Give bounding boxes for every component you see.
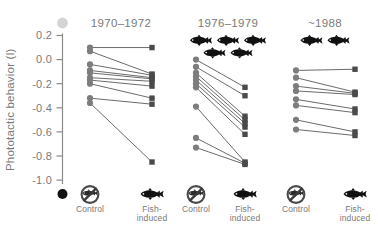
chart-figure: 0.2 0.0 -0.2 -0.4 -0.6 -0.8 -1.0 Photota…	[0, 0, 378, 238]
pair-connector-line	[196, 67, 245, 96]
chart-svg: 0.2 0.0 -0.2 -0.4 -0.6 -0.8 -1.0 Photota…	[0, 0, 378, 238]
pair-connector-line	[296, 105, 355, 112]
control-data-point	[293, 126, 299, 132]
control-data-point	[293, 75, 299, 81]
y-tick-label-5: -0.8	[32, 150, 52, 162]
pair-connector-line	[196, 138, 245, 163]
panel-title-2: ~1988	[308, 17, 342, 29]
pair-connector-line	[296, 91, 355, 95]
x-label-control: Control	[282, 204, 310, 214]
panel-series-2	[293, 67, 358, 139]
pair-connector-line	[90, 98, 152, 104]
fish-induced-data-point	[352, 110, 357, 115]
fish-induced-data-point	[242, 93, 247, 98]
control-data-point	[293, 117, 299, 123]
fish-induced-data-point	[149, 159, 154, 164]
x-label-fish-induced-line2: induced	[137, 213, 168, 223]
fish-induced-data-point	[149, 79, 154, 84]
fish-induced-data-point	[352, 133, 357, 138]
pair-connector-line	[196, 107, 245, 162]
fish-badge-icon	[190, 35, 212, 46]
x-label-control: Control	[76, 204, 104, 214]
x-label-fish-induced-line2: induced	[230, 213, 261, 223]
control-data-point	[87, 100, 93, 106]
control-data-point	[293, 96, 299, 102]
fish-icon	[141, 188, 164, 200]
x-category-fish-induced-0	[141, 188, 164, 200]
control-data-point	[293, 67, 299, 73]
y-tick-label-0: 0.2	[36, 29, 52, 41]
control-data-point	[293, 88, 299, 94]
fish-induced-data-point	[149, 95, 154, 100]
x-label-fish-induced-line2: induced	[340, 213, 371, 223]
control-data-point	[193, 135, 199, 141]
control-data-point	[193, 57, 199, 63]
y-tick-label-4: -0.6	[32, 126, 52, 138]
y-tick-label-3: -0.4	[32, 102, 52, 114]
fish-badge-icon	[217, 35, 239, 46]
control-data-point	[193, 103, 199, 109]
x-category-control-1	[188, 186, 205, 203]
pair-connector-line	[196, 84, 245, 127]
fish-induced-data-point	[149, 101, 154, 106]
control-data-point	[87, 48, 93, 54]
x-category-control-2	[288, 186, 305, 203]
pair-connector-line	[296, 69, 355, 70]
fish-icon	[234, 188, 257, 200]
y-axis-ticks	[57, 36, 63, 181]
pair-connector-line	[196, 80, 245, 123]
fish-badge-icon	[230, 47, 252, 58]
y-axis: 0.2 0.0 -0.2 -0.4 -0.6 -0.8 -1.0 Photota…	[4, 18, 68, 199]
fish-badge-icon	[203, 47, 225, 58]
fish-badge-icon	[327, 35, 349, 46]
panel-title-1: 1976–1979	[198, 17, 258, 29]
fish-badge-icon	[244, 35, 266, 46]
control-data-point	[87, 81, 93, 87]
control-data-point	[193, 84, 199, 90]
y-tick-label-6: -1.0	[32, 174, 52, 186]
axis-top-cap-circle	[57, 18, 68, 29]
x-category-fish-induced-2	[344, 188, 367, 200]
x-axis-layer: ControlFish-inducedControlFish-inducedCo…	[76, 186, 370, 223]
fish-induced-data-point	[352, 92, 357, 97]
pair-connector-line	[90, 103, 152, 162]
control-data-point	[193, 144, 199, 150]
control-data-point	[293, 102, 299, 108]
panel-title-0: 1970–1972	[91, 17, 151, 29]
axis-bottom-cap-circle	[58, 189, 68, 199]
control-data-point	[193, 64, 199, 70]
y-tick-label-1: 0.0	[36, 53, 52, 65]
y-axis-title: Phototactic behavior (l)	[4, 49, 16, 171]
fish-induced-data-point	[242, 124, 247, 129]
series-layer	[87, 44, 358, 167]
y-tick-label-2: -0.2	[32, 78, 52, 90]
pair-connector-line	[90, 84, 152, 98]
fish-badge-group	[190, 35, 350, 59]
panel-titles: 1970–1972 1976–1979 ~1988	[91, 17, 342, 29]
panel-series-0	[87, 44, 155, 164]
fish-induced-data-point	[242, 132, 247, 137]
panel-series-1	[193, 57, 248, 168]
fish-icon	[344, 188, 367, 200]
fish-badge-icon	[300, 35, 322, 46]
x-category-control-0	[82, 186, 99, 203]
x-category-fish-induced-1	[234, 188, 257, 200]
fish-induced-data-point	[352, 67, 357, 72]
pair-connector-line	[90, 51, 152, 74]
pair-connector-line	[296, 99, 355, 109]
x-label-control: Control	[182, 204, 210, 214]
fish-induced-data-point	[242, 85, 247, 90]
fish-induced-data-point	[149, 45, 154, 50]
fish-induced-data-point	[242, 162, 247, 167]
control-data-point	[87, 61, 93, 67]
fish-induced-data-point	[149, 83, 154, 88]
